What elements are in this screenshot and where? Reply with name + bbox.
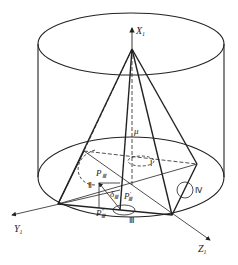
region-IV-label: Ⅳ	[195, 186, 203, 195]
lateral-edge-3	[132, 49, 197, 164]
x-axis-label: X1	[135, 25, 145, 37]
z-axis-label: Z1	[198, 243, 207, 255]
point-p3-label: PⅢ	[95, 168, 107, 179]
base-edge-back	[84, 151, 197, 164]
pyramid-cylinder-diagram: X1 Y1 Z1 μ PⅢ δⅢ P′Ⅲ P″Ⅲ Ⅰ Ⅱ Ⅲ Ⅳ	[0, 0, 238, 265]
point-p3-dprime-label: P″Ⅲ	[95, 208, 106, 219]
point-p3-prime-label: P′Ⅲ	[123, 191, 133, 202]
region-I-label: Ⅰ	[150, 159, 152, 168]
y-axis-label: Y1	[14, 223, 23, 235]
region-III-label: Ⅲ	[129, 216, 135, 225]
mu-angle-label: μ	[133, 126, 139, 136]
base-edge-front	[58, 164, 197, 215]
region-II-label: Ⅱ	[88, 181, 92, 190]
